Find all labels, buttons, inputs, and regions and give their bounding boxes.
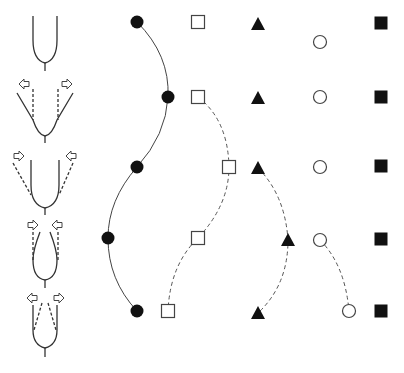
open-circle-icon [343, 305, 356, 318]
arrow-inward-right-icon [66, 151, 76, 161]
diagram-canvas [0, 0, 404, 373]
filled-triangle-icon [251, 17, 265, 30]
filled-circle-icon [131, 16, 144, 29]
filled-triangle-icon [251, 161, 265, 174]
filled-circle-icon [162, 91, 175, 104]
filled-square-icon [375, 91, 388, 104]
filled-square-series [375, 17, 388, 318]
arrow-inward-left-icon [28, 220, 38, 230]
stage-2-shape [17, 79, 73, 143]
arrow-inward-left-icon [14, 151, 24, 161]
open-circle-trajectory [320, 240, 349, 311]
arrow-outward-left-icon [19, 79, 29, 89]
open-square-icon [192, 232, 205, 245]
open-square-icon [162, 305, 175, 318]
stage-4-shape [28, 220, 62, 288]
filled-square-icon [375, 305, 388, 318]
arrow-outward-left-icon [27, 293, 37, 303]
triangle-trajectory [258, 168, 288, 313]
stage-3-shape [13, 151, 76, 215]
filled-square-icon [375, 17, 388, 30]
filled-triangle-icon [251, 91, 265, 104]
open-circle-icon [314, 36, 327, 49]
arrow-inward-right-icon [52, 220, 62, 230]
filled-circle-series [102, 16, 175, 318]
open-circle-icon [314, 234, 327, 247]
arrow-outward-right-icon [62, 79, 72, 89]
stage-1-shape [33, 16, 57, 71]
open-circle-icon [314, 161, 327, 174]
open-square-icon [192, 16, 205, 29]
filled-circle-icon [131, 305, 144, 318]
filled-circle-icon [131, 161, 144, 174]
filled-triangle-icon [251, 306, 265, 319]
open-square-trajectory [168, 97, 229, 311]
stage-5-shape [27, 293, 64, 357]
arrow-outward-right-icon [54, 293, 64, 303]
filled-triangle-series [251, 17, 295, 319]
filled-triangle-icon [281, 233, 295, 246]
open-circle-icon [314, 91, 327, 104]
open-square-icon [192, 91, 205, 104]
open-circle-series [314, 36, 356, 318]
filled-square-icon [375, 160, 388, 173]
filled-square-icon [375, 233, 388, 246]
open-square-series [162, 16, 236, 318]
open-square-icon [223, 161, 236, 174]
filled-circle-icon [102, 232, 115, 245]
